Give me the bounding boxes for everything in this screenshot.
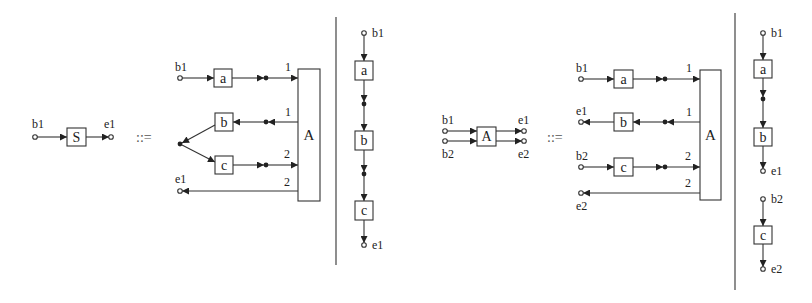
edge-label: 2 — [284, 147, 290, 161]
start-port — [178, 76, 183, 81]
production2-chain-2: b2 c e2 — [754, 192, 783, 276]
aggregator-label: A — [705, 127, 716, 143]
port-label: b2 — [442, 147, 454, 161]
node-label: A — [481, 129, 492, 144]
port-label: e2 — [518, 147, 529, 161]
start-port — [579, 77, 584, 82]
junction-dot — [663, 120, 668, 125]
node-label: a — [760, 62, 767, 77]
node-label: b — [361, 133, 368, 148]
edge-label: 1 — [285, 60, 291, 74]
end-port — [579, 191, 584, 196]
aggregator-label: A — [304, 127, 315, 143]
port-label: b1 — [372, 26, 384, 40]
junction-dot — [362, 172, 367, 177]
junction-dot — [264, 163, 269, 168]
node-label: b — [760, 130, 767, 145]
end-port — [579, 120, 584, 125]
port-label: b1 — [175, 60, 187, 74]
edge-label: 1 — [686, 105, 692, 119]
port-label: e1 — [771, 164, 782, 178]
end-port — [761, 267, 766, 272]
port-label: b1 — [442, 113, 454, 127]
junction-dot — [264, 120, 269, 125]
junction-dot — [264, 76, 269, 81]
node-label: b — [221, 115, 228, 130]
start-port — [761, 197, 766, 202]
node-label: a — [620, 72, 627, 87]
end-port — [761, 169, 766, 174]
start-port — [761, 31, 766, 36]
node-label: b — [620, 115, 627, 130]
node-label: c — [221, 158, 227, 173]
node-label: c — [361, 203, 367, 218]
end-port — [178, 189, 183, 194]
edge-arrow — [182, 145, 215, 162]
node-label: c — [760, 228, 766, 243]
port-label: e1 — [175, 172, 186, 186]
end-port — [109, 135, 114, 140]
port-label: b1 — [576, 61, 588, 75]
fork-dot — [178, 142, 183, 147]
production1-graph: b1 a 1 1 b c 2 2 e1 A — [175, 60, 320, 201]
production-operator: ::= — [136, 130, 152, 145]
edge-label: 2 — [685, 176, 691, 190]
port-label: e1 — [104, 117, 115, 131]
end-port — [522, 139, 527, 144]
production2-graph: b1 a 1 e1 1 b b2 c 2 2 e2 A — [576, 61, 721, 213]
port-label: b1 — [771, 26, 783, 40]
port-label: b2 — [576, 149, 588, 163]
port-label: e1 — [372, 238, 383, 252]
edge-label: 2 — [284, 175, 290, 189]
port-label: e2 — [576, 199, 587, 213]
production2-chain-1: b1 a b e1 — [754, 26, 783, 178]
production-operator: ::= — [547, 130, 563, 145]
junction-dot — [663, 165, 668, 170]
junction-dot — [362, 102, 367, 107]
node-label: a — [220, 71, 227, 86]
edge-label: 2 — [685, 149, 691, 163]
junction-dot — [761, 97, 766, 102]
node-label: c — [620, 160, 626, 175]
start-port — [362, 31, 367, 36]
start-port — [33, 135, 38, 140]
start-port — [443, 129, 448, 134]
port-label: b1 — [32, 117, 44, 131]
port-label: e2 — [771, 262, 782, 276]
production2-lhs: b1 b2 A e1 e2 — [442, 113, 529, 161]
end-port — [362, 243, 367, 248]
port-label: e1 — [576, 104, 587, 118]
port-label: e1 — [518, 113, 529, 127]
node-label: a — [361, 63, 368, 78]
grammar-diagram: b1 S e1 ::= b1 a 1 1 b c — [0, 0, 812, 303]
junction-dot — [663, 77, 668, 82]
port-label: b2 — [771, 192, 783, 206]
edge-arrow — [182, 125, 215, 143]
start-port — [443, 139, 448, 144]
node-label: S — [73, 130, 81, 145]
start-port — [579, 165, 584, 170]
end-port — [522, 129, 527, 134]
production1-chain: b1 a b c e1 — [355, 26, 384, 252]
production1-lhs: b1 S e1 — [32, 117, 115, 146]
edge-label: 1 — [686, 61, 692, 75]
edge-label: 1 — [285, 105, 291, 119]
